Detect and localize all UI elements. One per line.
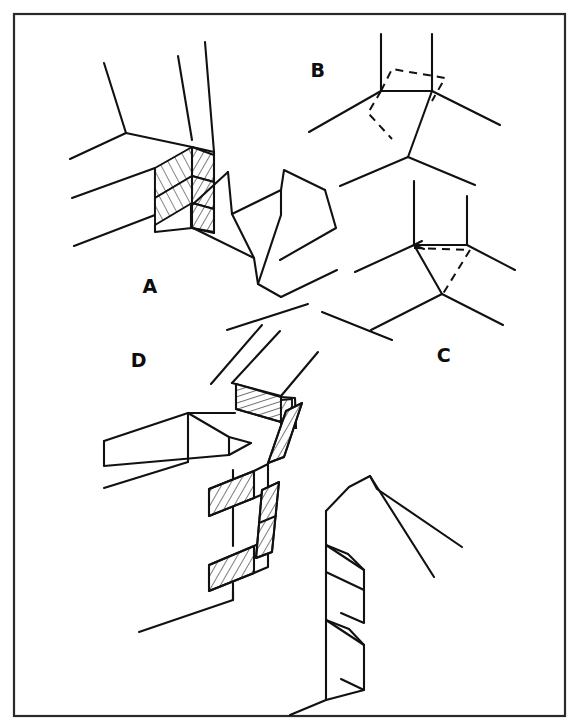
panel-a-tongue-face-3 xyxy=(192,203,214,232)
panel-d-right-bottom-edge xyxy=(326,645,364,700)
panel-d-right-bottom-diag xyxy=(290,700,326,715)
panel-b-arm-diagonal xyxy=(408,91,432,157)
panel-a-stack-lower-left xyxy=(155,225,192,232)
panel-d-right-bottom-tail xyxy=(341,663,364,690)
panel-d-left-step-low xyxy=(139,583,233,632)
panel-c-arm-diagonal xyxy=(414,245,442,294)
panel-c-arm-upper-left xyxy=(355,245,414,272)
figure-svg: A B C xyxy=(0,0,584,727)
panel-c-arm-upper-right xyxy=(467,245,515,270)
panel-a-drawing: A xyxy=(70,42,337,297)
figure-root: A B C xyxy=(0,0,584,727)
panel-a-upper-stem xyxy=(205,42,214,152)
panel-c-arm-lower-left xyxy=(371,294,442,330)
panel-d-drawing: D xyxy=(104,331,462,715)
panel-a-right-top-notch xyxy=(228,170,325,214)
panel-b-hidden-parallelogram xyxy=(381,69,445,101)
panel-a-right-step-edge xyxy=(232,214,254,258)
panel-b-arm-upper-right xyxy=(432,91,500,125)
panel-c-hidden-triangle-side xyxy=(441,250,470,297)
panel-a-right-inner-vert xyxy=(258,190,281,284)
panel-b-arm-upper-left xyxy=(309,91,381,132)
panel-label-a: A xyxy=(142,275,157,297)
panel-label-b: B xyxy=(311,59,326,81)
center-arm-upper-right xyxy=(322,312,392,340)
center-arm-upper-left xyxy=(227,304,308,330)
panel-b-hidden-lower xyxy=(368,91,392,139)
panel-d-right-mid xyxy=(326,572,364,663)
panel-d-upper-arm-left xyxy=(232,331,280,383)
panel-a-right-bottom-edge xyxy=(281,270,337,297)
panel-b-arm-lower-left xyxy=(340,157,408,186)
panel-d-low-tongue-face xyxy=(209,546,254,591)
panel-label-d: D xyxy=(131,349,147,371)
panel-a-left-bottom-edge xyxy=(74,215,155,246)
panel-d-upper-arm-right xyxy=(281,352,318,396)
panel-label-c: C xyxy=(437,344,451,366)
panel-d-left-top-face-edge xyxy=(104,413,235,441)
figure-border xyxy=(14,14,565,716)
panel-b-drawing: B xyxy=(309,34,500,186)
panel-d-left-upper-front xyxy=(104,441,229,466)
panel-a-left-mid-edge xyxy=(72,168,155,198)
panel-c-drawing: C xyxy=(355,181,515,366)
panel-b-arm-lower-right xyxy=(408,157,475,185)
panel-d-right-notch-2-inner xyxy=(341,590,364,623)
center-arm-lower-left xyxy=(211,325,262,384)
panel-d-mid-tongue-face xyxy=(209,471,254,516)
panel-d-right-diag-edge xyxy=(370,476,434,577)
panel-d-right-top-notch xyxy=(326,476,462,547)
panel-c-arm-lower-right xyxy=(442,294,503,325)
panel-d-left-top-front xyxy=(188,413,251,455)
panel-a-right-far-edge xyxy=(280,190,336,260)
panel-d-step-vert-1 xyxy=(229,437,251,443)
panel-d-right-upper-face xyxy=(326,511,364,590)
